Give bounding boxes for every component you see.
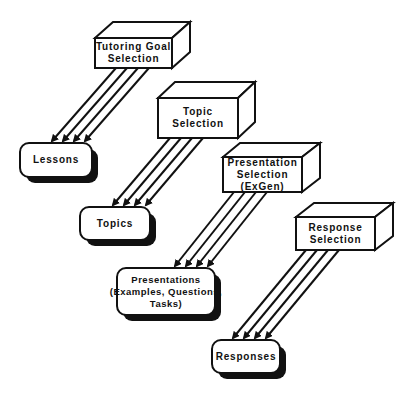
label-tutoring-goal-selection: Tutoring Goal Selection xyxy=(95,38,172,68)
label-line: Topic xyxy=(183,106,213,118)
label-line: (ExGen) xyxy=(241,181,285,193)
label-topics: Topics xyxy=(80,207,150,240)
label-line: Selection xyxy=(310,234,362,246)
label-line: Responses xyxy=(216,351,277,363)
label-line: Topics xyxy=(97,218,133,230)
label-line: Response xyxy=(308,222,362,234)
label-line: Selection xyxy=(237,169,289,181)
label-line: Tasks) xyxy=(150,298,182,310)
label-line: Selection xyxy=(172,118,224,130)
label-presentation-selection: Presentation Selection (ExGen) xyxy=(223,157,302,192)
label-presentations: Presentations (Examples, Questions, Task… xyxy=(117,268,215,315)
arrows-topic-to-topics xyxy=(113,138,203,205)
arrows-goal-to-lessons xyxy=(52,68,149,141)
label-topic-selection: Topic Selection xyxy=(158,98,238,138)
label-lessons: Lessons xyxy=(20,143,92,177)
label-line: Lessons xyxy=(33,154,79,166)
arrows-response-to-responses xyxy=(233,250,339,338)
arrows-presentation-to-presentations xyxy=(175,192,267,266)
diagram-canvas xyxy=(0,0,408,401)
label-response-selection: Response Selection xyxy=(296,217,375,250)
label-line: Tutoring Goal xyxy=(96,41,171,53)
label-line: (Examples, Questions, xyxy=(110,286,222,298)
label-line: Presentations xyxy=(131,274,200,286)
label-responses: Responses xyxy=(212,340,280,373)
label-line: Selection xyxy=(108,53,160,65)
label-line: Presentation xyxy=(227,157,297,169)
